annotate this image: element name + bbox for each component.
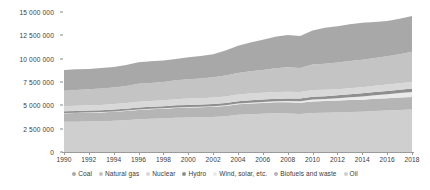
y-axis-tick-label: 5 000 000 <box>23 102 54 109</box>
legend-label: Wind, solar, etc. <box>219 170 267 177</box>
x-axis-tick-mark <box>188 152 189 155</box>
x-axis-tick-label: 1998 <box>156 156 171 163</box>
legend-swatch-icon <box>274 172 278 176</box>
x-axis-tick-label: 2016 <box>380 156 395 163</box>
y-axis-tick-mark <box>60 12 63 13</box>
x-axis-tick-mark <box>288 152 289 155</box>
x-axis-tick-label: 2012 <box>330 156 345 163</box>
x-axis-tick-label: 2018 <box>404 156 419 163</box>
legend-item-hydro[interactable]: Hydro <box>182 170 206 177</box>
x-axis-tick-mark <box>387 152 388 155</box>
x-axis-tick-label: 2010 <box>305 156 320 163</box>
x-axis-tick-mark <box>313 152 314 155</box>
legend-label: Oil <box>350 170 358 177</box>
legend-swatch-icon <box>213 172 217 176</box>
x-axis-tick-mark <box>163 152 164 155</box>
stacked-area-chart: 02 500 0005 000 0007 500 00010 000 00012… <box>0 0 430 190</box>
y-axis-tick-label: 7 500 000 <box>23 79 54 86</box>
x-axis-tick-mark <box>114 152 115 155</box>
legend-item-wind-solar-etc[interactable]: Wind, solar, etc. <box>213 170 267 177</box>
legend-swatch-icon <box>99 172 103 176</box>
legend-swatch-icon <box>182 172 186 176</box>
y-axis-tick-mark <box>60 105 63 106</box>
plot-area <box>64 12 412 152</box>
x-axis-tick-label: 2004 <box>230 156 245 163</box>
y-axis-tick-label: 12 500 000 <box>19 32 54 39</box>
x-axis-tick-mark <box>64 152 65 155</box>
x-axis-tick-mark <box>213 152 214 155</box>
x-axis-tick-label: 1994 <box>106 156 121 163</box>
x-axis-tick-label: 2014 <box>355 156 370 163</box>
x-axis-tick-label: 1992 <box>81 156 96 163</box>
x-axis-tick-label: 1996 <box>131 156 146 163</box>
legend-label: Biofuels and waste <box>280 170 336 177</box>
x-axis-tick-mark <box>337 152 338 155</box>
legend-label: Nuclear <box>152 170 175 177</box>
legend-item-oil[interactable]: Oil <box>344 170 358 177</box>
legend-item-biofuels-and-waste[interactable]: Biofuels and waste <box>274 170 336 177</box>
legend-item-natural-gas[interactable]: Natural gas <box>99 170 139 177</box>
x-axis-tick-mark <box>412 152 413 155</box>
y-axis: 02 500 0005 000 0007 500 00010 000 00012… <box>0 0 62 190</box>
y-axis-tick-label: 15 000 000 <box>19 9 54 16</box>
x-axis-tick-label: 2000 <box>181 156 196 163</box>
legend: CoalNatural gasNuclearHydroWind, solar, … <box>0 170 430 177</box>
legend-label: Hydro <box>188 170 206 177</box>
x-axis-tick-mark <box>238 152 239 155</box>
y-axis-tick-mark <box>60 58 63 59</box>
legend-swatch-icon <box>72 172 76 176</box>
legend-swatch-icon <box>344 172 348 176</box>
x-axis-tick-label: 1990 <box>56 156 71 163</box>
y-axis-tick-mark <box>60 35 63 36</box>
y-axis-tick-mark <box>60 128 63 129</box>
x-axis-tick-mark <box>89 152 90 155</box>
y-axis-tick-mark <box>60 82 63 83</box>
area-series-group <box>64 12 412 152</box>
y-axis-tick-label: 0 <box>50 149 54 156</box>
y-axis-tick-label: 2 500 000 <box>23 125 54 132</box>
x-axis-tick-label: 2008 <box>280 156 295 163</box>
legend-label: Natural gas <box>105 170 139 177</box>
x-axis-tick-mark <box>263 152 264 155</box>
legend-label: Coal <box>78 170 92 177</box>
legend-swatch-icon <box>146 172 150 176</box>
x-axis-tick-label: 2002 <box>206 156 221 163</box>
x-axis-tick-label: 2006 <box>255 156 270 163</box>
x-axis-tick-mark <box>362 152 363 155</box>
legend-item-coal[interactable]: Coal <box>72 170 92 177</box>
y-axis-tick-label: 10 000 000 <box>19 55 54 62</box>
legend-item-nuclear[interactable]: Nuclear <box>146 170 175 177</box>
x-axis-tick-mark <box>139 152 140 155</box>
